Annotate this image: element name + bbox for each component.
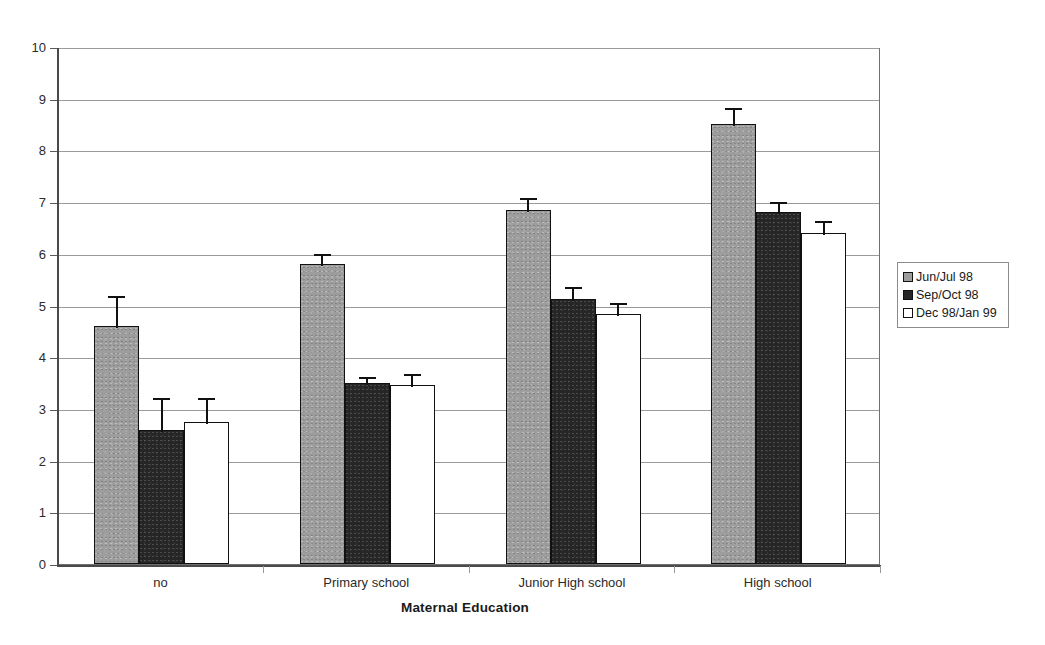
legend-swatch-icon <box>903 308 913 318</box>
error-bar-cap <box>153 398 170 400</box>
legend-swatch-icon <box>903 290 913 300</box>
legend: Jun/Jul 98 Sep/Oct 98 Dec 98/Jan 99 <box>897 262 1009 328</box>
bar <box>551 299 596 564</box>
bar <box>94 326 139 564</box>
y-axis-line <box>57 48 59 566</box>
y-axis-tick <box>50 410 57 411</box>
y-axis-tick <box>50 100 57 101</box>
y-axis-tick <box>50 358 57 359</box>
y-axis-tick <box>50 203 57 204</box>
bar <box>184 422 229 564</box>
y-axis-tick-label: 5 <box>14 299 46 314</box>
bar <box>300 264 345 564</box>
x-axis-separator-tick <box>469 566 470 573</box>
y-axis-tick-label: 6 <box>14 247 46 262</box>
x-axis-category-label: Junior High school <box>482 575 662 590</box>
x-axis-separator-tick <box>263 566 264 573</box>
legend-item-1[interactable]: Sep/Oct 98 <box>903 286 1004 304</box>
y-axis-tick-label: 3 <box>14 402 46 417</box>
error-bar-cap <box>198 398 215 400</box>
legend-item-2[interactable]: Dec 98/Jan 99 <box>903 304 1004 322</box>
x-axis-category-label: High school <box>688 575 868 590</box>
y-axis-tick <box>50 48 57 49</box>
gridline <box>58 48 879 49</box>
error-bar-cap <box>725 108 742 110</box>
bar <box>390 385 435 564</box>
error-bar-stem <box>823 221 825 235</box>
x-axis-category-label: no <box>71 575 251 590</box>
y-axis-tick <box>50 462 57 463</box>
plot-area <box>57 48 880 565</box>
y-axis-tick-label: 2 <box>14 454 46 469</box>
error-bar-cap <box>359 377 376 379</box>
y-axis-tick-label: 4 <box>14 350 46 365</box>
x-axis-separator-tick <box>674 566 675 573</box>
bar <box>756 212 801 564</box>
legend-swatch-icon <box>903 272 913 282</box>
bar <box>345 383 390 564</box>
bar-chart: 109876543210 noPrimary schoolJunior High… <box>0 0 1045 645</box>
bar <box>139 430 184 564</box>
error-bar-stem <box>527 198 529 211</box>
legend-item-label: Jun/Jul 98 <box>916 270 973 284</box>
bar <box>801 233 846 564</box>
y-axis-tick-label: 8 <box>14 143 46 158</box>
error-bar-cap <box>404 374 421 376</box>
error-bar-stem <box>733 108 735 125</box>
error-bar-cap <box>314 254 331 256</box>
y-axis-tick <box>50 513 57 514</box>
y-axis-tick-label: 9 <box>14 92 46 107</box>
legend-item-0[interactable]: Jun/Jul 98 <box>903 268 1004 286</box>
y-axis-tick-label: 10 <box>14 40 46 55</box>
gridline <box>58 100 879 101</box>
bar <box>711 124 756 564</box>
error-bar-cap <box>610 303 627 305</box>
x-axis-title: Maternal Education <box>0 600 930 615</box>
y-axis-tick-label: 7 <box>14 195 46 210</box>
y-axis-tick <box>50 307 57 308</box>
error-bar-cap <box>815 221 832 223</box>
y-axis-tick-label: 1 <box>14 505 46 520</box>
bar <box>596 314 641 564</box>
x-axis-category-label: Primary school <box>276 575 456 590</box>
y-axis-tick-label: 0 <box>14 557 46 572</box>
error-bar-cap <box>520 198 537 200</box>
error-bar-stem <box>116 296 118 328</box>
y-axis-tick <box>50 151 57 152</box>
error-bar-stem <box>206 398 208 424</box>
error-bar-cap <box>108 296 125 298</box>
error-bar-cap <box>770 202 787 204</box>
legend-item-label: Dec 98/Jan 99 <box>916 306 997 320</box>
x-axis-separator-tick <box>880 566 881 573</box>
bar <box>506 210 551 564</box>
error-bar-stem <box>161 398 163 432</box>
y-axis-tick <box>50 565 57 566</box>
legend-item-label: Sep/Oct 98 <box>916 288 979 302</box>
error-bar-stem <box>572 287 574 301</box>
error-bar-cap <box>565 287 582 289</box>
y-axis-tick <box>50 255 57 256</box>
